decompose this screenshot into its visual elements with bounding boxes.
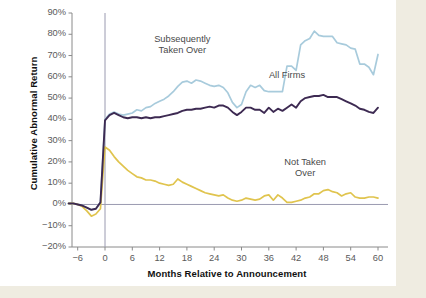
- x-tick-label: 18: [172, 253, 202, 263]
- x-tick-label: 54: [336, 253, 366, 263]
- annotation-line: Not Taken: [260, 157, 350, 168]
- x-tick-label: −6: [63, 253, 93, 263]
- y-tick-label: 20%: [26, 156, 66, 166]
- x-tick-label: 6: [117, 253, 147, 263]
- annotation-line: Over: [260, 168, 350, 179]
- x-tick-label: 24: [199, 253, 229, 263]
- y-tick-label: −20%: [26, 241, 66, 251]
- x-axis-title: Months Relative to Announcement: [72, 268, 382, 279]
- y-tick-label: 40%: [26, 113, 66, 123]
- x-tick-label: 42: [281, 253, 311, 263]
- annotation-line: All Firms: [242, 70, 332, 81]
- figure: Cumulative Abnormal Return Months Relati…: [0, 0, 426, 298]
- y-tick-label: 30%: [26, 135, 66, 145]
- y-tick-label: 10%: [26, 177, 66, 187]
- annotation-line: Subsequently: [137, 34, 227, 45]
- x-tick-label: 12: [145, 253, 175, 263]
- annotation-line: Taken Over: [137, 45, 227, 56]
- y-tick-label: −10%: [26, 220, 66, 230]
- x-tick-label: 30: [227, 253, 257, 263]
- not-taken-over-label: Not TakenOver: [260, 157, 350, 179]
- y-tick-label: 60%: [26, 71, 66, 81]
- x-tick-label: 0: [90, 253, 120, 263]
- y-tick-label: 80%: [26, 28, 66, 38]
- all-firms-label: All Firms: [242, 70, 332, 81]
- y-tick-label: 0%: [26, 198, 66, 208]
- y-tick-label: 50%: [26, 92, 66, 102]
- x-tick-label: 36: [254, 253, 284, 263]
- series-line-subsequently-taken-over: [69, 31, 378, 210]
- x-tick-label: 60: [363, 253, 393, 263]
- subsequently-taken-over-label: SubsequentlyTaken Over: [137, 34, 227, 56]
- y-tick-label: 70%: [26, 50, 66, 60]
- y-tick-label: 90%: [26, 7, 66, 17]
- x-tick-label: 48: [308, 253, 338, 263]
